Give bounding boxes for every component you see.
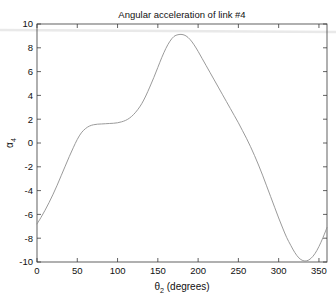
angular-acceleration-chart: Angular acceleration of link #4 05010015… <box>0 0 336 299</box>
y-axis-title-subscript: 4 <box>9 138 18 142</box>
y-axis-title: α4 <box>4 138 18 148</box>
x-tick-label: 350 <box>311 265 327 276</box>
figure-canvas: Angular acceleration of link #4 05010015… <box>0 0 336 299</box>
y-axis-tick-marks-left <box>37 24 41 262</box>
y-tick-label: -2 <box>25 161 33 172</box>
x-tick-label: 100 <box>110 265 126 276</box>
x-tick-label: 250 <box>230 265 246 276</box>
x-axis-tick-marks-bottom <box>37 258 319 262</box>
plot-box-frame <box>37 24 327 262</box>
y-axis-tick-labels: -10-8-6-4-20246810 <box>19 18 33 267</box>
y-tick-label: 0 <box>28 137 33 148</box>
alpha4-data-curve <box>37 34 327 261</box>
y-axis-tick-marks-right <box>323 24 327 262</box>
x-axis-tick-marks-top <box>37 24 319 28</box>
y-tick-label: 6 <box>28 66 33 77</box>
y-tick-label: 2 <box>28 114 33 125</box>
x-tick-label: 50 <box>72 265 83 276</box>
x-tick-label: 0 <box>34 265 39 276</box>
y-tick-label: 4 <box>28 90 33 101</box>
scan-artifact-line <box>0 30 336 32</box>
y-tick-label: 8 <box>28 42 33 53</box>
y-tick-label: -6 <box>25 209 33 220</box>
y-tick-label: -4 <box>25 185 33 196</box>
x-tick-label: 300 <box>271 265 287 276</box>
x-tick-label: 150 <box>150 265 166 276</box>
x-axis-title-tail: (degrees) <box>164 281 210 292</box>
y-tick-label: 10 <box>22 18 33 29</box>
y-tick-label: -8 <box>25 233 33 244</box>
x-axis-tick-labels: 050100150200250300350 <box>34 265 327 276</box>
x-axis-title: θ2 (degrees) <box>154 281 209 295</box>
x-tick-label: 200 <box>190 265 206 276</box>
y-tick-label: -10 <box>19 256 33 267</box>
chart-title: Angular acceleration of link #4 <box>118 9 245 20</box>
